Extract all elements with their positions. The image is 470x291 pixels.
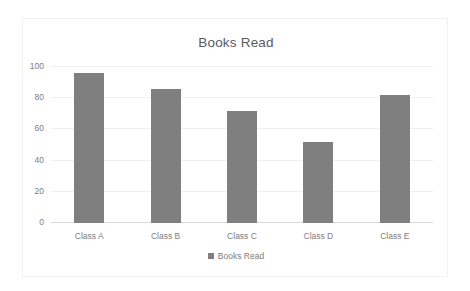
chart-title: Books Read — [23, 35, 449, 50]
y-axis-tick-label: 80 — [35, 92, 44, 102]
y-axis-tick-label: 20 — [35, 186, 44, 196]
x-tick-slot: Class A — [51, 67, 127, 223]
x-axis-tick-label: Class C — [227, 231, 257, 241]
legend-swatch-icon — [208, 253, 214, 259]
plot-area: 020406080100 Class AClass BClass CClass … — [51, 67, 433, 223]
x-axis-tick-label: Class A — [75, 231, 104, 241]
y-axis-tick-label: 0 — [39, 217, 44, 227]
x-tick-slot: Class B — [127, 67, 203, 223]
x-axis-tick-label: Class B — [151, 231, 180, 241]
chart-legend: Books Read — [23, 251, 449, 261]
chart-container: Books Read 020406080100 Class AClass BCl… — [22, 18, 448, 277]
x-tick-slot: Class D — [280, 67, 356, 223]
y-axis-tick-label: 40 — [35, 155, 44, 165]
x-axis-tick-label: Class E — [380, 231, 409, 241]
x-tick-slot: Class E — [357, 67, 433, 223]
legend-label-books-read: Books Read — [218, 251, 264, 261]
x-tick-slot: Class C — [204, 67, 280, 223]
y-axis-tick-label: 100 — [30, 61, 44, 71]
y-axis-tick-label: 60 — [35, 123, 44, 133]
x-axis-tick-label: Class D — [303, 231, 333, 241]
